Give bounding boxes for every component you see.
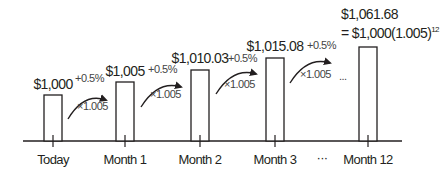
compound-growth-diagram: Today Month 1 Month 2 Month 3 ··· Month … <box>0 0 445 176</box>
rate-label: +0.5% <box>148 63 178 75</box>
bar-today <box>44 95 62 141</box>
category-label: Today <box>37 152 70 167</box>
multiplier-label: ×1.005 <box>224 78 255 90</box>
category-label: Month 3 <box>254 152 297 167</box>
rate-label: +0.5% <box>75 72 105 84</box>
rate-label: +0.5% <box>307 39 337 51</box>
category-label: Month 2 <box>179 152 222 167</box>
multiplier-label: ×1.005 <box>300 68 331 80</box>
formula-exponent: 12 <box>431 25 440 34</box>
value-label-month-2: $1,010.03 <box>172 50 230 66</box>
value-label-today: $1,000 <box>33 76 73 92</box>
ellipsis-label: ... <box>339 70 347 82</box>
axis-ellipsis: ··· <box>316 150 327 165</box>
bar-month-1 <box>116 82 134 141</box>
formula-label: = $1,000(1.005)12 <box>341 25 440 41</box>
bar-month-3 <box>266 58 284 141</box>
bar-month-2 <box>191 70 209 141</box>
category-label: Month 1 <box>104 152 147 167</box>
formula-text: = $1,000(1.005) <box>341 25 431 41</box>
multiplier-label: ×1.005 <box>150 88 181 100</box>
category-label: Month 12 <box>343 152 393 167</box>
bar-month-12 <box>359 47 377 141</box>
multiplier-label: ×1.005 <box>77 100 108 112</box>
rate-label: +0.5% <box>228 52 258 64</box>
value-label-month-1: $1,005 <box>105 63 145 79</box>
value-label-month-12: $1,061.68 <box>341 6 399 22</box>
